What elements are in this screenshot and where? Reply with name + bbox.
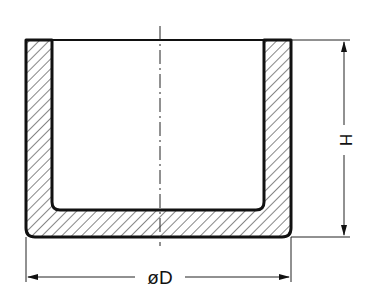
diameter-dimension: øD: [26, 237, 291, 288]
cup-section: [26, 40, 291, 237]
height-dimension: H: [291, 40, 355, 237]
height-label: H: [336, 134, 355, 146]
technical-drawing: H øD: [0, 0, 376, 305]
diameter-label: øD: [147, 267, 172, 288]
